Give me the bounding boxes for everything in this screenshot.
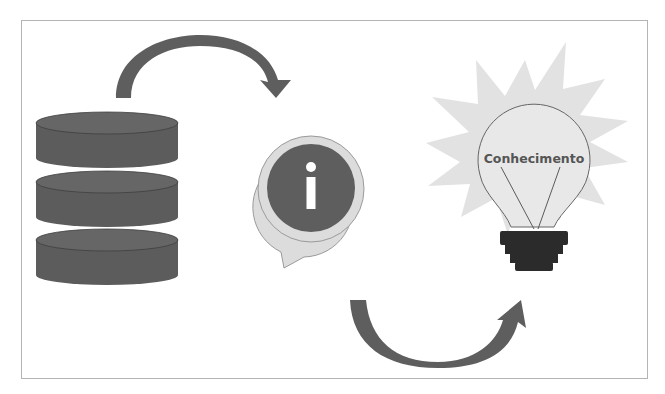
info-speech-bubble-icon <box>253 136 364 268</box>
bulb-label: Conhecimento <box>484 151 585 166</box>
lightbulb-icon: Conhecimento <box>426 42 628 271</box>
arrow-database-to-information <box>116 35 291 98</box>
info-stem <box>307 177 316 209</box>
info-dot <box>306 162 316 172</box>
arrow-information-to-knowledge <box>350 300 526 368</box>
bulb-socket-icon <box>500 231 568 271</box>
diagram-canvas: Conhecimento <box>0 0 665 394</box>
database-icon <box>36 112 178 285</box>
